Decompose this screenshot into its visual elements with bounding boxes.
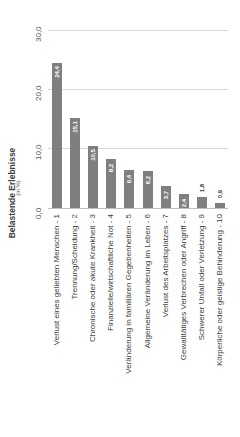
gridline-20 <box>48 89 228 90</box>
bar-chart: Belastende Erlebnisse (in %) 0,0 10,0 20… <box>0 0 240 437</box>
y-tick-20: 20,0 <box>34 85 43 101</box>
category-label: Chronische oder akute Krankheit - 3 <box>88 214 97 342</box>
chart-subtitle: (in %) <box>15 168 21 208</box>
gridline-30 <box>48 30 228 31</box>
category-label: Allgemeine Veränderung im Leben - 6 <box>143 214 152 348</box>
category-label: Verlust des Arbeitsplatzes - 7 <box>161 214 170 317</box>
bar-value-label: 1,8 <box>199 178 205 198</box>
x-axis-line <box>48 208 228 209</box>
bar-value-label: 24,4 <box>54 62 60 82</box>
category-label: Finanzielle/wirtschaftliche Not - 4 <box>106 214 115 331</box>
bar-value-label: 15,1 <box>72 117 78 137</box>
y-tick-10: 10,0 <box>34 144 43 160</box>
bar-value-label: 0,9 <box>217 184 223 204</box>
bar-value-label: 6,4 <box>126 169 132 189</box>
bar-value-label: 8,2 <box>108 158 114 178</box>
y-tick-0: 0,0 <box>34 208 43 219</box>
bar-value-label: 2,4 <box>181 193 187 213</box>
bar <box>197 197 207 208</box>
y-tick-30: 30,0 <box>34 26 43 42</box>
bar-value-label: 6,2 <box>145 170 151 190</box>
category-label: Gewalttätiges Verbrechen oder Angriff - … <box>179 214 188 360</box>
bar <box>52 63 62 208</box>
category-label: Trennung/Scheidung - 2 <box>70 214 79 300</box>
bar-value-label: 10,5 <box>90 145 96 165</box>
category-label: Veränderung in familiären Gegebenheiten … <box>124 214 133 374</box>
bar-value-label: 3,7 <box>163 185 169 205</box>
category-label: Körperliche oder geistige Behinderung - … <box>215 214 224 366</box>
category-label: Schwerer Unfall oder Verletzung - 9 <box>197 214 206 340</box>
category-label: Verlust eines geliebten Menschen - 1 <box>52 214 61 345</box>
